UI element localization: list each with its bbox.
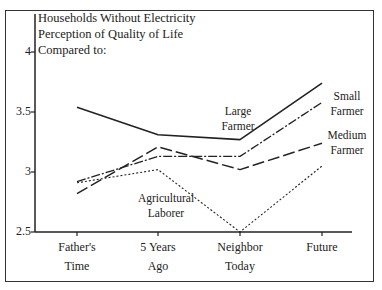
label-line: Farmer [322,104,372,119]
title-line-2: Perception of Quality of Life [38,26,196,42]
y-tick-3: 3 [3,164,31,178]
label-small-farmer: Small Farmer [322,89,372,119]
y-tick-2-5: 2.5 [3,224,31,238]
x-tick-future: Future [282,238,362,257]
title-line-3: Compared to: [38,42,196,58]
x-tick-line: Time [37,257,117,276]
label-line: Medium [318,128,376,143]
label-line: Laborer [126,206,206,221]
label-line: Farmer [318,143,376,158]
series-small-farmer [77,102,322,181]
x-tick-line: Today [200,257,280,276]
series-large-farmer [77,83,322,139]
x-tick-line: Father's [37,238,117,257]
label-line: Farmer [208,119,268,134]
label-agricultural-laborer: Agricultural Laborer [126,191,206,221]
x-tick-5-years-ago: 5 Years Ago [118,238,198,276]
y-tick-4: 4 [3,44,31,58]
series-medium-farmer [77,143,322,193]
y-tick-3-5: 3.5 [3,104,31,118]
label-line: Large [208,104,268,119]
x-tick-line: Future [282,238,362,257]
x-tick-neighbor-today: Neighbor Today [200,238,280,276]
chart-title: Households Without Electricity Perceptio… [38,10,196,58]
label-line: Small [322,89,372,104]
title-line-1: Households Without Electricity [38,10,196,26]
label-large-farmer: Large Farmer [208,104,268,134]
label-medium-farmer: Medium Farmer [318,128,376,158]
x-tick-line: 5 Years [118,238,198,257]
x-tick-line: Ago [118,257,198,276]
x-tick-fathers-time: Father's Time [37,238,117,276]
label-line: Agricultural [126,191,206,206]
x-tick-line: Neighbor [200,238,280,257]
